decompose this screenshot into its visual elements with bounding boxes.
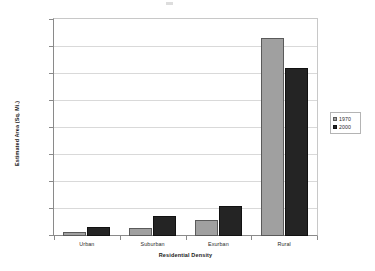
y-axis-title: Estimated Area (Sq. Mi.) (11, 74, 23, 192)
x-tick-mark (54, 236, 55, 240)
legend-label-2000: 2000 (339, 124, 351, 130)
bar (219, 206, 242, 236)
x-tick-mark (120, 236, 121, 240)
y-tick-mark (49, 127, 53, 128)
x-tick-label: Exurban (186, 241, 252, 247)
y-tick-mark (49, 154, 53, 155)
y-tick-mark (49, 19, 53, 20)
x-tick-mark (317, 236, 318, 240)
bar-group (186, 19, 252, 236)
legend-label-1970: 1970 (339, 116, 351, 122)
legend: 1970 2000 (330, 112, 361, 134)
bar (153, 216, 176, 236)
x-tick-label: Rural (251, 241, 317, 247)
bar (285, 68, 308, 236)
legend-swatch-2000-icon (333, 125, 337, 129)
y-tick-mark (49, 100, 53, 101)
y-axis: 05,00010,00015,00020,00025,00030,00035,0… (0, 0, 50, 271)
bar (195, 220, 218, 236)
x-tick-mark (186, 236, 187, 240)
bar (261, 38, 284, 236)
y-tick-mark (49, 235, 53, 236)
x-tick-mark (251, 236, 252, 240)
x-axis-title: Residential Density (53, 252, 318, 258)
scan-artifact (166, 2, 173, 5)
bar (129, 228, 152, 236)
bar-group (54, 19, 120, 236)
x-tick-label: Suburban (120, 241, 186, 247)
bar-group (251, 19, 317, 236)
bar-chart: 05,00010,00015,00020,00025,00030,00035,0… (0, 0, 375, 271)
bar (63, 232, 86, 236)
y-tick-mark (49, 73, 53, 74)
bars-layer (54, 19, 317, 236)
legend-swatch-1970-icon (333, 117, 337, 121)
bar-group (120, 19, 186, 236)
legend-item-1970: 1970 (333, 115, 358, 123)
y-tick-mark (49, 208, 53, 209)
y-tick-mark (49, 181, 53, 182)
y-tick-mark (49, 46, 53, 47)
legend-item-2000: 2000 (333, 123, 358, 131)
x-tick-label: Urban (54, 241, 120, 247)
bar (87, 227, 110, 236)
